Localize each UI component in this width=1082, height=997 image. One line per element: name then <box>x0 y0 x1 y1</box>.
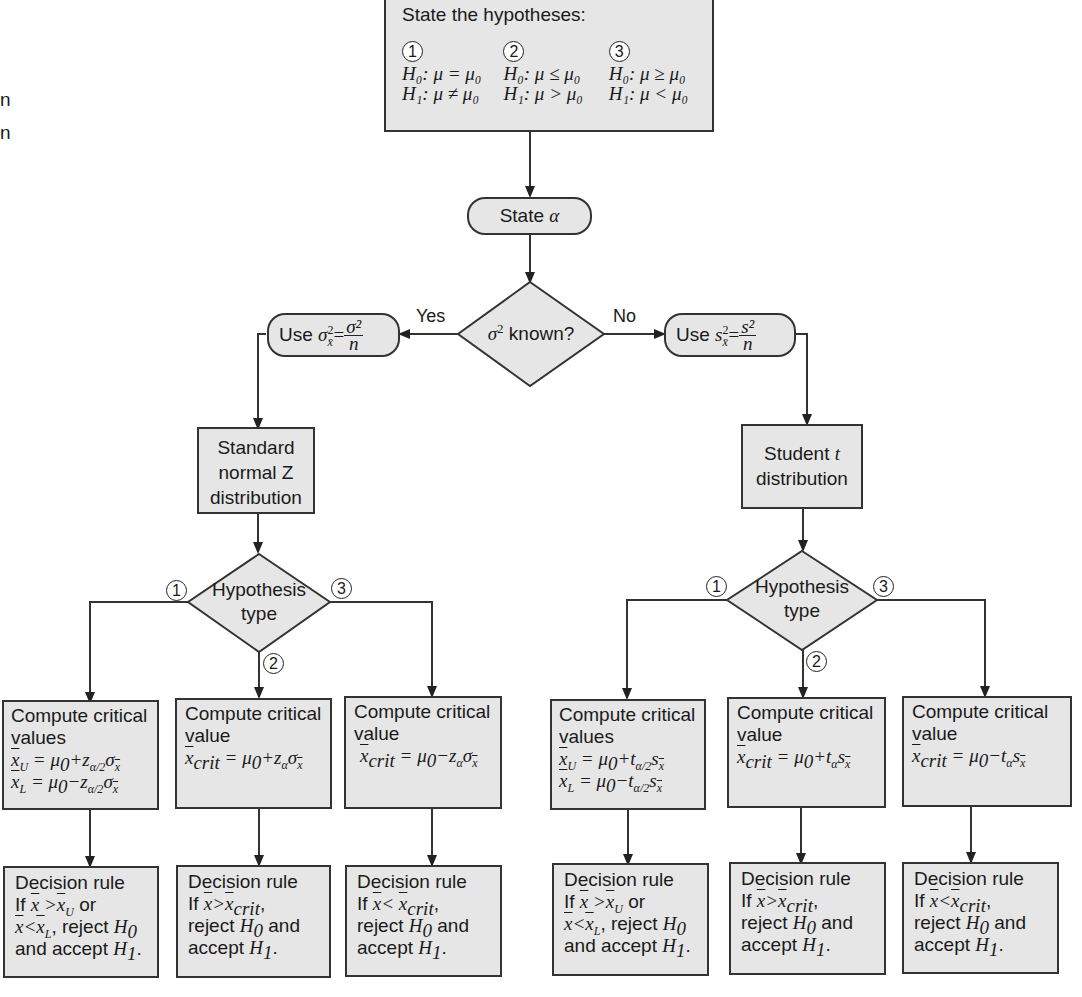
z-dist-line-1: Standard <box>199 435 313 460</box>
and-accept-text: and accept <box>564 935 657 956</box>
decision-line-3: and accept H1. <box>15 938 157 960</box>
t-decision-upper-box: Decision rule If x>xcrit, reject H0 and … <box>729 862 886 975</box>
decision-title: Decision rule <box>15 872 157 894</box>
t-decision-two-tailed-box: Decision rule If x >xU or x<xL, reject H… <box>552 863 709 976</box>
sigma-symbol: σ <box>488 323 497 344</box>
t-branch-3-badge: 3 <box>873 576 894 597</box>
hyp-type-line-2: type <box>742 599 862 623</box>
t-compute-two-tailed-box: Compute critical values xU = μ0+tα/2sx x… <box>550 699 706 810</box>
t-dist-line-1: Student t <box>743 441 861 466</box>
hypothesis-number-2: 2 <box>503 41 524 62</box>
crit-sub: crit <box>193 752 219 773</box>
reject-text: reject <box>611 913 657 934</box>
reject-text: reject <box>188 915 234 936</box>
compute-sub: value <box>185 725 330 747</box>
alpha-symbol: α <box>549 205 559 226</box>
decision-line-2: x<xL, reject H0 <box>564 913 707 935</box>
decision-line-1: If x >xU or <box>15 894 157 916</box>
use-s-fraction: s²n <box>739 319 756 352</box>
decision-title: Decision rule <box>564 869 707 891</box>
decision-line-2: reject H0 and <box>914 912 1057 934</box>
z-branch-1-badge: 1 <box>166 580 187 601</box>
decision-title: Decision rule <box>914 868 1057 890</box>
z-decision-upper-box: Decision rule If x>xcrit, reject H0 and … <box>176 865 331 978</box>
compute-sub: value <box>737 724 884 746</box>
if-text: If <box>914 890 925 911</box>
t-decision-lower-box: Decision rule If x<xcrit, reject H0 and … <box>902 862 1059 974</box>
use-sigma-fraction: σ²n <box>344 319 363 352</box>
t-dist-line-2: distribution <box>743 466 861 491</box>
hyp-type-line-1: Hypothesis <box>742 575 862 599</box>
reject-text: reject <box>62 916 108 937</box>
z-compute-lower-box: Compute critical value xcrit = μ0−zασx <box>344 696 502 809</box>
hypothesis-number-1: 1 <box>402 41 423 62</box>
t-upper-formula: xU = μ0+tα/2sx <box>559 748 704 770</box>
z-lower-formula: xL = μ0−zα/2σx <box>11 771 157 793</box>
hypothesis-1-h1: H₁: μ ≠ μ₀ <box>402 84 503 104</box>
decision-line-1: If x>xcrit, <box>188 893 329 915</box>
and-text: and <box>994 912 1026 933</box>
compute-sub: value <box>912 723 1070 745</box>
compute-sub: values <box>11 727 157 749</box>
sigma-known-label: σ2 known? <box>466 322 596 346</box>
and-accept-text: and accept <box>15 938 108 959</box>
accept-text: accept <box>188 937 244 958</box>
decision-line-3: accept H1. <box>914 934 1057 956</box>
known-text: known? <box>504 323 575 344</box>
t-symbol: t <box>835 443 840 464</box>
if-text: If <box>564 891 575 912</box>
fraction-denominator: n <box>344 336 363 352</box>
hypothesis-2: 2 H₀: μ ≤ μ₀ H₁: μ > μ₀ <box>503 40 608 104</box>
decision-title: Decision rule <box>741 868 884 890</box>
and-text: and <box>821 912 853 933</box>
accept-text: accept <box>914 934 970 955</box>
or-text: or <box>628 891 645 912</box>
decision-line-1: If x<xcrit, <box>914 890 1057 912</box>
t-crit-lower-formula: xcrit = μ0−tαsx <box>912 745 1070 767</box>
z-crit-upper-formula: xcrit = μ0+zασx <box>185 747 330 769</box>
z-decision-lower-box: Decision rule If x< xcrit, reject H0 and… <box>345 865 502 977</box>
t-crit-upper-formula: xcrit = μ0+tαsx <box>737 746 884 768</box>
z-compute-upper-box: Compute critical value xcrit = μ0+zασx <box>175 698 332 809</box>
t-hypothesis-type-label: Hypothesis type <box>742 575 862 623</box>
compute-sub: value <box>354 723 500 745</box>
decision-line-2: x<xL, reject H0 <box>15 916 157 938</box>
or-text: or <box>79 894 96 915</box>
z-branch-3-badge: 3 <box>331 578 352 599</box>
decision-line-2: reject H0 and <box>357 915 500 937</box>
decision-line-2: reject H0 and <box>188 915 329 937</box>
crit-sub: crit <box>920 750 946 771</box>
crit-sub: crit <box>745 751 771 772</box>
decision-line-3: accept H1. <box>357 937 500 959</box>
connector-lines <box>0 0 1082 997</box>
state-hypotheses-box: State the hypotheses: 1 H₀: μ = μ₀ H₁: μ… <box>384 0 714 132</box>
decision-line-3: accept H1. <box>741 934 884 956</box>
hypothesis-1: 1 H₀: μ = μ₀ H₁: μ ≠ μ₀ <box>402 40 503 104</box>
z-crit-lower-formula: xcrit = μ0−zασx <box>354 745 500 767</box>
use-sigma-box: Use σ2x̄=σ²n <box>267 313 400 357</box>
t-dist-student: Student <box>764 443 835 464</box>
state-alpha-box: State α <box>467 197 592 235</box>
t-compute-upper-box: Compute critical value xcrit = μ0+tαsx <box>727 697 886 808</box>
decision-line-1: If x>xcrit, <box>741 890 884 912</box>
and-text: and <box>268 915 300 936</box>
t-branch-2-badge: 2 <box>806 651 827 672</box>
use-sigma-label: Use <box>279 324 318 345</box>
if-text: If <box>357 893 368 914</box>
compute-sub: values <box>559 726 704 748</box>
z-dist-line-2: normal Z <box>199 460 313 485</box>
accept-text: accept <box>357 937 413 958</box>
z-compute-two-tailed-box: Compute critical values xU = μ0+zα/2σx x… <box>2 700 159 810</box>
z-decision-two-tailed-box: Decision rule If x >xU or x<xL, reject H… <box>3 866 159 978</box>
reject-text: reject <box>914 912 960 933</box>
t-compute-lower-box: Compute critical value xcrit = μ0−tαsx <box>902 696 1072 807</box>
t-branch-1-badge: 1 <box>706 576 727 597</box>
accept-text: accept <box>741 934 797 955</box>
crit-sub: crit <box>368 750 394 771</box>
no-label: No <box>613 306 636 327</box>
hypothesis-1-h0: H₀: μ = μ₀ <box>402 64 503 84</box>
decision-title: Decision rule <box>357 871 500 893</box>
hypothesis-2-h0: H₀: μ ≤ μ₀ <box>503 64 608 84</box>
compute-title: Compute critical <box>11 705 157 727</box>
decision-title: Decision rule <box>188 871 329 893</box>
